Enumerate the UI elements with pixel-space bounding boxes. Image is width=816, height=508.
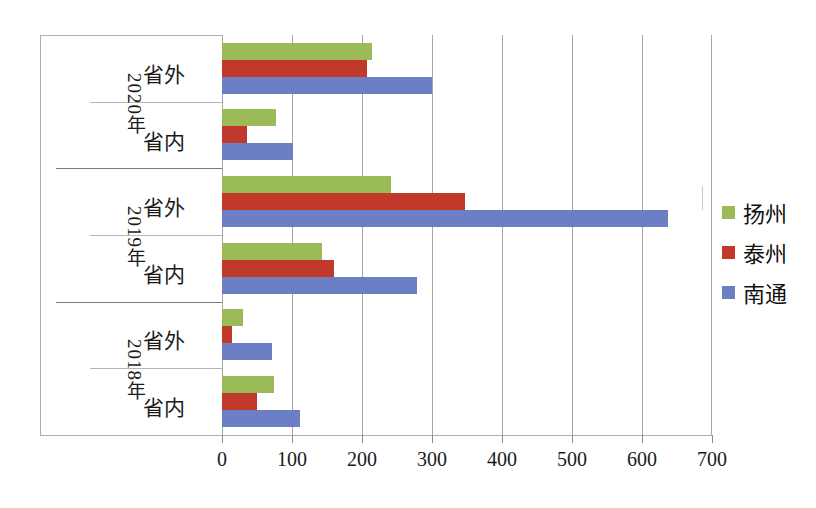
group-separator-1 xyxy=(56,302,222,303)
plot-left-border xyxy=(40,35,41,435)
legend-swatch-icon-nantong xyxy=(722,286,735,299)
gridline-600 xyxy=(642,35,643,435)
gridline-700 xyxy=(711,35,712,435)
tick-mark-600 xyxy=(642,435,643,443)
year-group-2020: 2020年 xyxy=(42,42,110,166)
bar-2018-inside-nantong xyxy=(222,410,300,427)
legend-label-taizhou: 泰州 xyxy=(743,236,787,268)
tick-label-100: 100 xyxy=(262,448,322,471)
legend-label-yangzhou: 扬州 xyxy=(743,196,787,228)
bar-2018-outside-taizhou xyxy=(222,326,232,343)
bar-2018-outside-yangzhou xyxy=(222,309,243,326)
tick-label-300: 300 xyxy=(402,448,462,471)
tick-label-500: 500 xyxy=(542,448,602,471)
bar-2019-outside-yangzhou xyxy=(222,176,391,193)
bar-2019-outside-nantong xyxy=(222,210,668,227)
gridline-100 xyxy=(292,35,293,435)
year-label-2020: 2020年 xyxy=(88,73,148,135)
bar-2019-inside-yangzhou xyxy=(222,243,322,260)
tick-mark-0 xyxy=(222,435,223,443)
year-group-2018: 2018年 xyxy=(42,308,110,432)
tick-label-0: 0 xyxy=(192,448,252,471)
x-axis-line xyxy=(40,435,712,436)
bar-2019-inside-nantong xyxy=(222,277,417,294)
legend-item-nantong[interactable]: 南通 xyxy=(722,272,814,312)
bar-2020-inside-taizhou xyxy=(222,126,247,143)
gridline-400 xyxy=(502,35,503,435)
plot-area xyxy=(222,35,712,435)
year-label-2019: 2019年 xyxy=(88,206,148,268)
tick-mark-400 xyxy=(502,435,503,443)
legend-swatch-icon-taizhou xyxy=(722,246,735,259)
legend-swatch-icon-yangzhou xyxy=(722,206,735,219)
group-separator-0 xyxy=(56,168,222,169)
bar-2020-outside-taizhou xyxy=(222,60,367,77)
tick-label-700: 700 xyxy=(682,448,742,471)
legend-item-yangzhou[interactable]: 扬州 xyxy=(722,192,814,232)
tick-label-400: 400 xyxy=(472,448,532,471)
gridline-200 xyxy=(362,35,363,435)
bar-2018-inside-taizhou xyxy=(222,393,257,410)
legend-divider xyxy=(702,186,703,210)
legend: 扬州 泰州 南通 xyxy=(722,192,814,312)
bar-2020-inside-yangzhou xyxy=(222,109,276,126)
legend-label-nantong: 南通 xyxy=(743,276,787,308)
bar-2019-inside-taizhou xyxy=(222,260,334,277)
bar-2020-outside-nantong xyxy=(222,77,432,94)
tick-mark-100 xyxy=(292,435,293,443)
tick-mark-300 xyxy=(432,435,433,443)
gridline-300 xyxy=(432,35,433,435)
bar-2018-outside-nantong xyxy=(222,343,272,360)
tick-mark-700 xyxy=(712,435,713,443)
bar-2019-outside-taizhou xyxy=(222,193,465,210)
tick-mark-500 xyxy=(572,435,573,443)
bar-2018-inside-yangzhou xyxy=(222,376,274,393)
gridline-500 xyxy=(572,35,573,435)
plot-top-border xyxy=(40,35,222,36)
tick-mark-200 xyxy=(362,435,363,443)
year-group-2019: 2019年 xyxy=(42,175,110,299)
legend-item-taizhou[interactable]: 泰州 xyxy=(722,232,814,272)
bar-2020-inside-nantong xyxy=(222,143,293,160)
year-label-2018: 2018年 xyxy=(88,339,148,401)
tick-label-600: 600 xyxy=(612,448,672,471)
tick-label-200: 200 xyxy=(332,448,392,471)
bar-chart: 省外 省内 省外 省内 省外 省内 2020年 2019年 2018年 0100… xyxy=(0,0,816,508)
bar-2020-outside-yangzhou xyxy=(222,43,372,60)
